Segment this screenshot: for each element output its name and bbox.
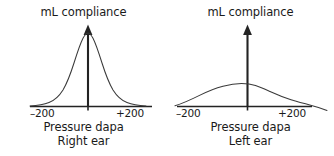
x-tick-label-min-left-ear: –200: [176, 108, 201, 119]
x-axis-label-right-ear: Pressure dapa: [0, 120, 167, 134]
tympanogram-figure: mL compliance –200 +200 Pressure dapa Ri…: [0, 0, 334, 156]
x-tick-label-min-right-ear: –200: [30, 108, 55, 119]
x-tick-label-max-left-ear: +200: [278, 108, 306, 119]
chart-panel-right-ear: mL compliance –200 +200 Pressure dapa Ri…: [0, 0, 167, 156]
x-tick-label-max-right-ear: +200: [116, 108, 144, 119]
x-axis-label-left-ear: Pressure dapa: [167, 120, 334, 134]
y-axis-arrowhead-left-ear: [243, 25, 252, 36]
panel-sublabel-left-ear: Left ear: [167, 134, 334, 148]
panel-sublabel-right-ear: Right ear: [0, 134, 167, 148]
chart-panel-left-ear: mL compliance –200 +200 Pressure dapa Le…: [167, 0, 334, 156]
